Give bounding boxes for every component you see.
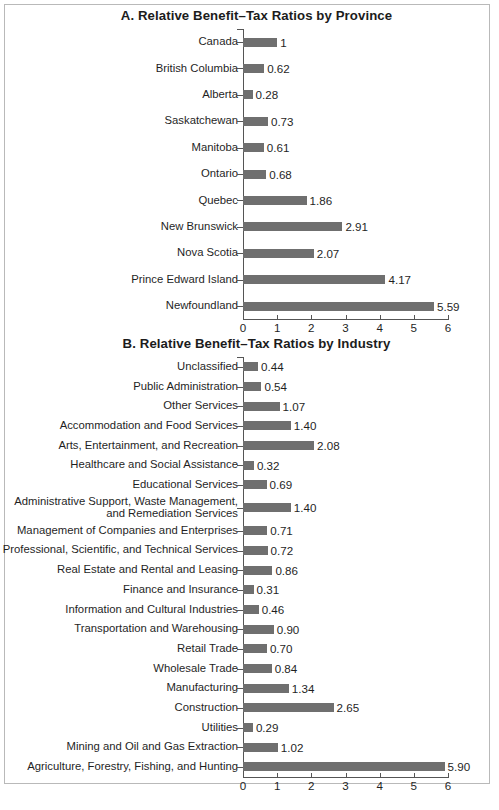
bar-value-label: 2.91 xyxy=(345,220,368,233)
bar-track: 0.90 xyxy=(243,619,499,639)
x-axis-tick-label: 2 xyxy=(308,779,314,792)
bar xyxy=(243,461,254,470)
bar xyxy=(243,222,342,231)
x-axis-tick-label: 5 xyxy=(411,321,417,334)
bar-track: 0.46 xyxy=(243,600,499,620)
category-tick xyxy=(237,42,243,43)
category-tick xyxy=(237,367,243,368)
bar-row: Canada1 xyxy=(0,29,499,55)
category-label: Mining and Oil and Gas Extraction xyxy=(0,741,243,753)
category-label: Transportation and Warehousing xyxy=(0,623,243,635)
bar-row: Information and Cultural Industries0.46 xyxy=(0,600,499,620)
bar-value-label: 5.90 xyxy=(448,760,471,773)
x-axis-tick-label: 4 xyxy=(376,779,382,792)
x-axis-tick-label: 0 xyxy=(240,779,246,792)
bar-track: 5.90 xyxy=(243,757,499,777)
chart-b-plot-area: Unclassified0.44Public Administration0.5… xyxy=(0,357,499,777)
bar xyxy=(243,546,268,555)
category-label: Retail Trade xyxy=(0,643,243,655)
bar-value-label: 5.59 xyxy=(437,300,460,313)
bar-value-label: 0.54 xyxy=(264,380,287,393)
x-axis-tick xyxy=(346,315,347,320)
category-tick xyxy=(237,68,243,69)
bar-track: 0.44 xyxy=(243,357,499,377)
bar-row: Mining and Oil and Gas Extraction1.02 xyxy=(0,737,499,757)
bar-value-label: 0.71 xyxy=(270,524,293,537)
bar-track: 1.34 xyxy=(243,678,499,698)
bar-track: 0.72 xyxy=(243,541,499,561)
bar-track: 0.29 xyxy=(243,718,499,738)
bar-track: 0.84 xyxy=(243,659,499,679)
category-label: Unclassified xyxy=(0,361,243,373)
bar xyxy=(243,143,264,152)
bar-value-label: 1.02 xyxy=(281,741,304,754)
category-label: Newfoundland xyxy=(0,300,243,312)
bar-track: 0.86 xyxy=(243,560,499,580)
bar xyxy=(243,275,385,284)
bar-row: Real Estate and Rental and Leasing0.86 xyxy=(0,560,499,580)
category-tick xyxy=(237,426,243,427)
category-tick xyxy=(237,95,243,96)
bar-row: New Brunswick2.91 xyxy=(0,214,499,240)
bar-value-label: 2.08 xyxy=(317,439,340,452)
bar-value-label: 0.84 xyxy=(275,662,298,675)
category-tick xyxy=(237,387,243,388)
category-tick xyxy=(237,485,243,486)
bar-track: 0.73 xyxy=(243,108,499,134)
x-axis-tick xyxy=(448,773,449,778)
bar-value-label: 0.46 xyxy=(262,603,285,616)
x-axis-tick-label: 3 xyxy=(342,779,348,792)
bar-value-label: 1.40 xyxy=(294,419,317,432)
category-label: Healthcare and Social Assistance xyxy=(0,459,243,471)
bar xyxy=(243,503,291,512)
category-label: Professional, Scientific, and Technical … xyxy=(0,544,243,556)
bar-track: 0.54 xyxy=(243,377,499,397)
bar xyxy=(243,402,280,411)
category-label: Manufacturing xyxy=(0,682,243,694)
bar xyxy=(243,64,264,73)
bar-track: 0.28 xyxy=(243,82,499,108)
category-tick xyxy=(237,767,243,768)
bar xyxy=(243,441,314,450)
bar-value-label: 0.61 xyxy=(267,141,290,154)
category-tick xyxy=(237,280,243,281)
bar-value-label: 1.86 xyxy=(310,194,333,207)
bar-value-label: 0.70 xyxy=(270,642,293,655)
category-tick xyxy=(237,728,243,729)
x-axis-tick xyxy=(380,773,381,778)
bar xyxy=(243,117,268,126)
bar-value-label: 1.34 xyxy=(292,682,315,695)
category-label: Wholesale Trade xyxy=(0,663,243,675)
bar xyxy=(243,644,267,653)
category-tick xyxy=(237,306,243,307)
category-label: Public Administration xyxy=(0,381,243,393)
bar-row: Retail Trade0.70 xyxy=(0,639,499,659)
bar-value-label: 0.31 xyxy=(257,583,280,596)
category-label: Agriculture, Forestry, Fishing, and Hunt… xyxy=(0,761,243,773)
bar xyxy=(243,684,289,693)
category-tick xyxy=(237,227,243,228)
bar-track: 2.65 xyxy=(243,698,499,718)
bar-value-label: 0.68 xyxy=(269,168,292,181)
bar-row: Prince Edward Island4.17 xyxy=(0,267,499,293)
bar-row: Quebec1.86 xyxy=(0,187,499,213)
category-label: Canada xyxy=(0,36,243,48)
x-axis-tick-label: 5 xyxy=(411,779,417,792)
category-label: Arts, Entertainment, and Recreation xyxy=(0,440,243,452)
bar-track: 1.02 xyxy=(243,737,499,757)
category-label: Utilities xyxy=(0,722,243,734)
bar-value-label: 2.65 xyxy=(337,701,360,714)
category-label: Other Services xyxy=(0,400,243,412)
category-label: Nova Scotia xyxy=(0,247,243,259)
chart-panel-a: A. Relative Benefit–Tax Ratios by Provin… xyxy=(0,8,499,339)
bar-track: 0.61 xyxy=(243,135,499,161)
x-axis-tick xyxy=(243,773,244,778)
bar-track: 1.07 xyxy=(243,396,499,416)
bar-row: Construction2.65 xyxy=(0,698,499,718)
category-tick xyxy=(237,253,243,254)
bar xyxy=(243,723,253,732)
category-label: Accommodation and Food Services xyxy=(0,420,243,432)
x-axis-tick-label: 0 xyxy=(240,321,246,334)
bar xyxy=(243,743,278,752)
category-tick xyxy=(237,688,243,689)
